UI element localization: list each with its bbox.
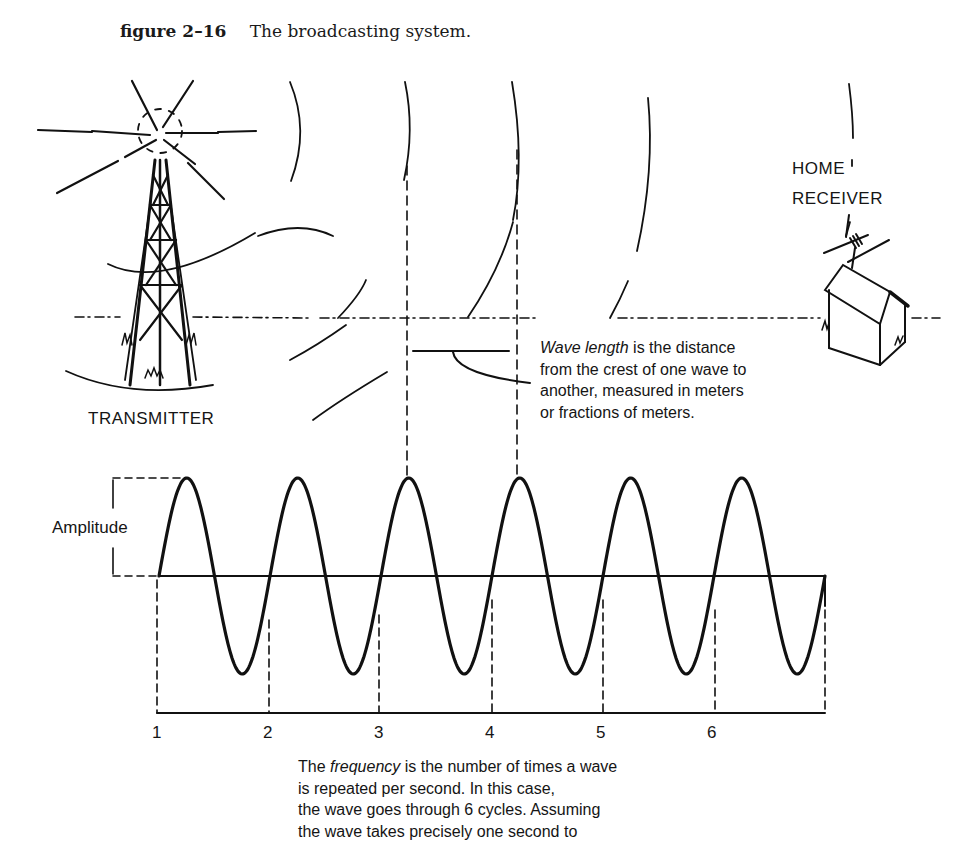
frequency-line1-rest: is the number of times a wave (400, 758, 617, 775)
wavelength-term: Wave length (540, 339, 629, 356)
transmitter-tower-icon (38, 81, 256, 385)
wavelength-line3: another, measured in meters (540, 380, 746, 402)
cycle-tick-3: 3 (374, 723, 383, 743)
frequency-line3: the wave goes through 6 cycles. Assuming (298, 799, 617, 821)
home-receiver-label-line1: HOME (792, 158, 845, 180)
frequency-line2: is repeated per second. In this case, (298, 778, 617, 800)
wavelength-line2: from the crest of one wave to (540, 359, 746, 381)
home-receiver-house-icon (822, 215, 908, 365)
wavelength-line1: is the distance (629, 339, 736, 356)
cycle-tick-1: 1 (152, 723, 161, 743)
frequency-description: The frequency is the number of times a w… (298, 756, 617, 842)
ground-line (75, 317, 940, 318)
wavelength-description: Wave length is the distance from the cre… (540, 337, 746, 423)
frequency-term: frequency (330, 758, 400, 775)
sine-wave-chart (113, 478, 825, 713)
amplitude-label: Amplitude (52, 517, 128, 539)
frequency-line4: the wave takes precisely one second to (298, 821, 617, 843)
wavelength-markers (407, 150, 530, 475)
cycle-tick-4: 4 (485, 723, 494, 743)
home-receiver-label-line2: RECEIVER (792, 188, 883, 210)
transmitter-label: TRANSMITTER (88, 408, 214, 430)
cycle-tick-2: 2 (263, 723, 272, 743)
cycle-tick-5: 5 (596, 723, 605, 743)
frequency-line1-pre: The (298, 758, 330, 775)
wavelength-line4: or fractions of meters. (540, 402, 746, 424)
cycle-tick-6: 6 (707, 723, 716, 743)
